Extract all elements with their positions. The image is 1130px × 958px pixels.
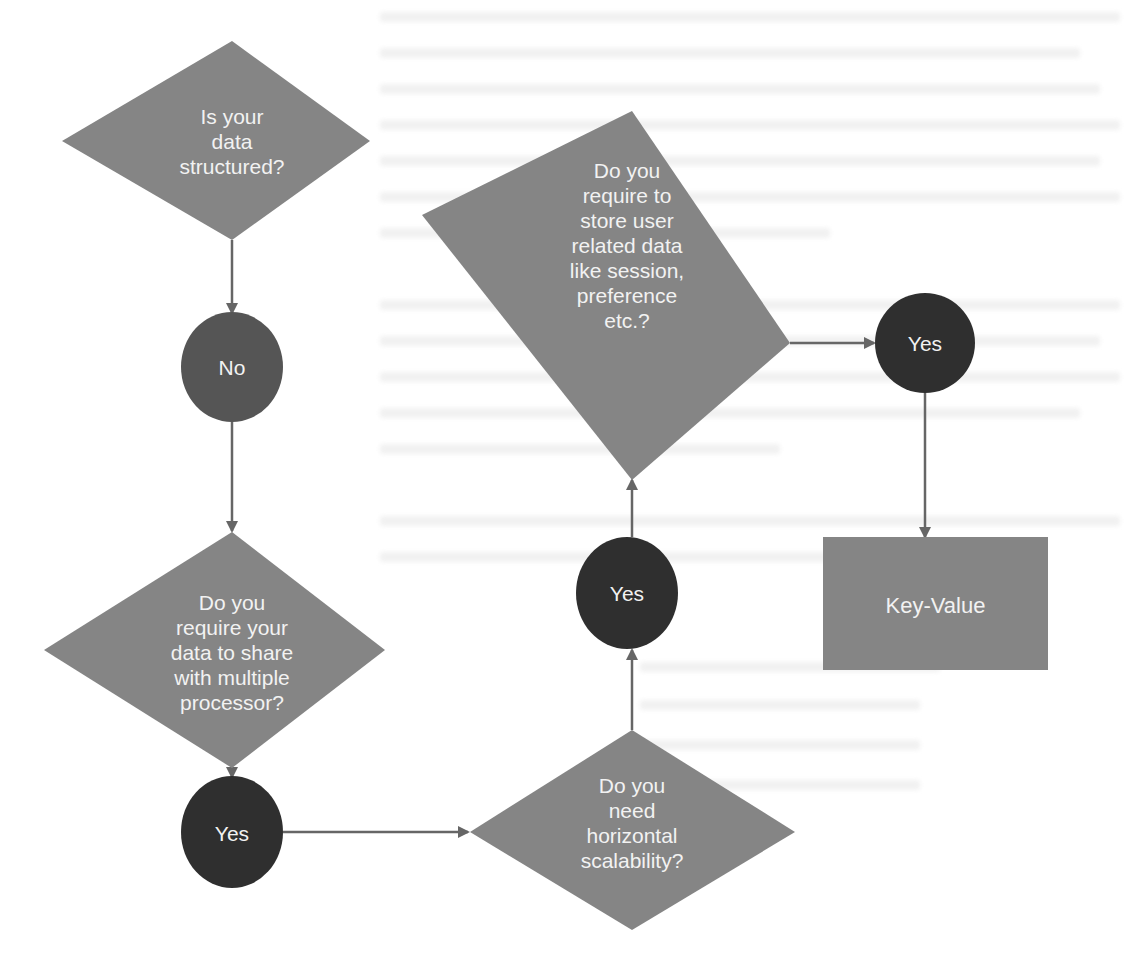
label-key-value: Key-Value [823, 580, 1048, 630]
label-yes-3: Yes [875, 318, 975, 368]
flowchart-canvas: Is your data structured? No Do you requi… [0, 0, 1130, 958]
label-share-processor: Do you require your data to share with m… [117, 585, 347, 720]
label-yes-1: Yes [182, 808, 282, 858]
label-yes-2: Yes [577, 568, 677, 618]
label-no: No [182, 342, 282, 392]
label-horizontal-scalability: Do you need horizontal scalability? [557, 767, 707, 879]
label-structured: Is your data structured? [132, 86, 332, 196]
label-user-related-data: Do you require to store user related dat… [542, 155, 712, 335]
